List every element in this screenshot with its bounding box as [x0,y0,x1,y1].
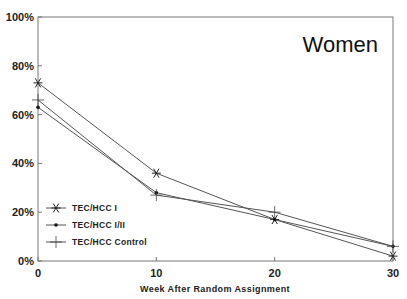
dot-marker-icon [36,105,40,109]
x-axis: 0102030 [35,257,399,279]
legend-label: TEC/HCC Control [72,237,147,247]
y-tick-label: 20% [12,206,34,218]
x-tick-label: 10 [150,267,162,279]
x-tick-label: 30 [387,267,399,279]
y-tick-label: 100% [6,11,34,23]
line-chart: 0%20%40%60%80%100% 0102030 Women Week Af… [0,0,407,299]
legend-label: TEC/HCC I/II [72,220,125,230]
legend: TEC/HCC ITEC/HCC I/IITEC/HCC Control [46,203,147,248]
legend-item: TEC/HCC I [46,203,117,213]
series-lines [32,78,399,260]
dot-marker-icon [273,218,277,222]
y-tick-label: 0% [18,255,34,267]
y-tick-label: 60% [12,109,34,121]
legend-item: TEC/HCC I/II [46,220,125,230]
series-tec-hcc-i [34,78,398,260]
series-line [38,83,393,256]
x-axis-title: Week After Random Assignment [140,284,290,294]
legend-label: TEC/HCC I [72,203,117,213]
y-axis: 0%20%40%60%80%100% [6,11,42,267]
x-tick-label: 0 [35,267,41,279]
panel-title: Women [303,32,378,57]
y-tick-label: 80% [12,60,34,72]
y-tick-label: 40% [12,157,34,169]
dot-marker-icon [54,223,58,227]
legend-item: TEC/HCC Control [46,236,147,248]
x-tick-label: 20 [269,267,281,279]
